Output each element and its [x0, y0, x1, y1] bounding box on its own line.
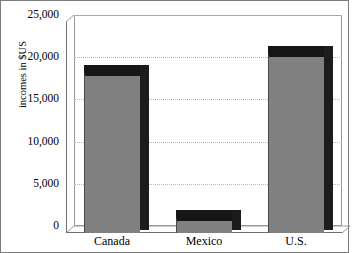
bar-front-face	[176, 216, 232, 233]
bar-canada[interactable]	[84, 64, 140, 233]
bar-mexico[interactable]	[176, 209, 232, 233]
y-axis-line	[66, 22, 67, 233]
y-axis-tick-label: 0	[5, 220, 59, 232]
y-axis-tick-labels: 05,00010,00015,00020,00025,000	[3, 1, 59, 253]
x-axis-tick-labels: CanadaMexicoU.S.	[66, 234, 342, 253]
y-axis-tick-label: 20,000	[5, 51, 59, 63]
x-axis-tick-label: U.S.	[246, 234, 346, 249]
bar-us[interactable]	[268, 45, 324, 233]
bar-front-face	[268, 52, 324, 233]
bar-side-face	[232, 210, 241, 230]
y-axis-tick-label: 10,000	[5, 136, 59, 148]
bar-side-face	[324, 46, 333, 230]
gridline	[74, 15, 342, 16]
y-axis-tick-label: 15,000	[5, 93, 59, 105]
x-axis-tick-label: Canada	[62, 234, 162, 249]
y-axis-tick-label: 5,000	[5, 178, 59, 190]
x-axis-tick-label: Mexico	[154, 234, 254, 249]
plot-area	[66, 22, 342, 233]
y-axis-tick-label: 25,000	[5, 9, 59, 21]
bar-side-face	[140, 65, 149, 230]
bar-front-face	[84, 71, 140, 233]
